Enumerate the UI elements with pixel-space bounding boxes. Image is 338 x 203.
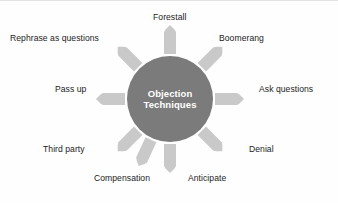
ray-boomerang	[198, 42, 227, 71]
ray-pass-up	[96, 93, 125, 105]
spoke-label-ask-questions: Ask questions	[259, 84, 313, 94]
spoke-label-rephrase-as-questions: Rephrase as questions	[10, 33, 99, 43]
spoke-label-denial: Denial	[249, 144, 274, 154]
objection-techniques-diagram	[0, 1, 338, 203]
ray-denial	[198, 127, 227, 156]
ray-compensation	[133, 137, 156, 168]
ray-third-party	[113, 127, 142, 156]
ray-anticipate	[164, 144, 176, 173]
ray-ask-questions	[215, 93, 244, 105]
diagram-canvas: Objection Techniques Forestall Boomerang…	[0, 0, 338, 203]
spoke-label-third-party: Third party	[43, 144, 85, 154]
ray-rephrase-as-questions	[113, 42, 142, 71]
spoke-label-pass-up: Pass up	[55, 84, 86, 94]
spoke-label-boomerang: Boomerang	[219, 33, 264, 43]
spoke-label-compensation: Compensation	[94, 173, 150, 183]
hub-circle	[127, 56, 213, 142]
spoke-label-anticipate: Anticipate	[188, 173, 226, 183]
spoke-label-forestall: Forestall	[153, 12, 186, 22]
ray-forestall	[164, 25, 176, 54]
